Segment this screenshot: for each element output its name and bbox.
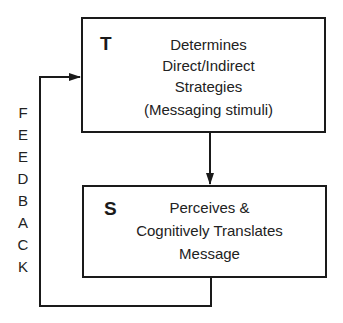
feedback-letter: A <box>15 215 31 230</box>
feedback-letter: C <box>15 237 31 252</box>
box-text-line: Determines <box>83 37 324 52</box>
flow-diagram: T Determines Direct/Indirect Strategies … <box>0 0 343 323</box>
box-text-line: Strategies <box>83 79 324 94</box>
box-text-line: Message <box>84 246 325 261</box>
feedback-letter: F <box>15 105 31 120</box>
teacher-box: T Determines Direct/Indirect Strategies … <box>81 17 326 133</box>
feedback-letter: E <box>15 149 31 164</box>
feedback-letter: B <box>15 193 31 208</box>
box-text-line: (Messaging stimuli) <box>83 102 324 117</box>
feedback-letter: E <box>15 127 31 142</box>
box-text-line: Direct/Indirect <box>83 58 324 73</box>
student-box: S Perceives & Cognitively Translates Mes… <box>82 185 327 278</box>
box-text-line: Cognitively Translates <box>84 223 325 238</box>
feedback-letter: K <box>15 259 31 274</box>
feedback-letter: D <box>15 171 31 186</box>
box-text-line: Perceives & <box>84 200 325 215</box>
